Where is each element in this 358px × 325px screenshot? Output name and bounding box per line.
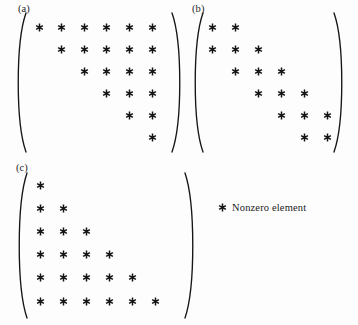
nonzero-element-icon [36, 204, 45, 213]
nonzero-element-icon [151, 297, 160, 306]
nonzero-element-icon [59, 297, 68, 306]
nonzero-element-icon [36, 250, 45, 259]
nonzero-element-icon [59, 227, 68, 236]
sparse-matrix-figure: (a)(b)(c) [0, 0, 358, 325]
nonzero-element-icon [82, 273, 91, 282]
nonzero-element-icon [36, 181, 45, 190]
nonzero-element-icon [36, 297, 45, 306]
nonzero-element-icon [59, 250, 68, 259]
nonzero-element-icon [105, 297, 114, 306]
nonzero-element-icon [128, 297, 137, 306]
nonzero-element-icon [82, 250, 91, 259]
nonzero-element-icon [36, 227, 45, 236]
matrix-panel-c: (c) [0, 0, 358, 325]
nonzero-element-icon [59, 204, 68, 213]
nonzero-element-icon [59, 273, 68, 282]
nonzero-element-icon [105, 273, 114, 282]
nonzero-element-icon [128, 273, 137, 282]
right-parenthesis-c [185, 173, 193, 318]
panel-label-c: (c) [16, 162, 28, 173]
nonzero-element-icon [82, 227, 91, 236]
nonzero-element-icon [82, 297, 91, 306]
legend-label: Nonzero element [232, 202, 306, 213]
nonzero-element-icon [36, 273, 45, 282]
left-parenthesis-c [19, 173, 27, 318]
matrix-brackets-c [0, 0, 358, 325]
nonzero-element-icon [105, 250, 114, 259]
nonzero-element-icon [218, 203, 227, 212]
legend: Nonzero element [218, 202, 306, 213]
